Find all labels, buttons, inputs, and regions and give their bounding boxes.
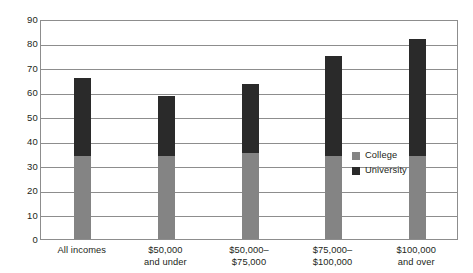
bar-segment-university[interactable] [74, 78, 91, 156]
bar-segment-university[interactable] [325, 56, 342, 156]
y-axis-tick-label: 80 [4, 39, 38, 49]
y-axis-tick-label: 70 [4, 64, 38, 74]
legend-swatch-icon [352, 152, 360, 160]
y-axis-tick-label: 10 [4, 211, 38, 221]
legend-item[interactable]: University [352, 163, 444, 178]
bar-segment-college[interactable] [74, 156, 91, 239]
legend-item[interactable]: College [352, 148, 444, 163]
legend-label: College [365, 151, 397, 160]
x-axis-tick-label-line: and over [364, 256, 468, 268]
bar-segment-university[interactable] [409, 39, 426, 156]
y-axis-tick-label: 50 [4, 113, 38, 123]
bar-segment-university[interactable] [158, 96, 175, 156]
bar-group[interactable] [158, 19, 175, 239]
bar-group[interactable] [409, 19, 426, 239]
y-axis-tick-label: 90 [4, 15, 38, 25]
y-axis: 0102030405060708090 [0, 0, 38, 273]
y-axis-tick-label: 20 [4, 186, 38, 196]
bar-segment-college[interactable] [242, 153, 259, 239]
bar-segment-university[interactable] [242, 84, 259, 154]
y-axis-tick-label: 40 [4, 137, 38, 147]
y-axis-tick-label: 30 [4, 162, 38, 172]
x-axis-tick-label: $100,000and over [364, 244, 468, 269]
bar-group[interactable] [325, 19, 342, 239]
legend-label: University [365, 166, 407, 175]
x-axis-tick-label-line: $100,000 [364, 244, 468, 256]
y-axis-tick-label: 60 [4, 88, 38, 98]
plot-area [40, 20, 458, 240]
bar-group[interactable] [74, 19, 91, 239]
chart-legend: CollegeUniversity [352, 148, 444, 178]
bar-group[interactable] [242, 19, 259, 239]
bar-segment-college[interactable] [158, 156, 175, 239]
stacked-bar-chart: 0102030405060708090 All incomes$50,000an… [0, 0, 473, 273]
bar-segment-college[interactable] [325, 156, 342, 239]
legend-swatch-icon [352, 167, 360, 175]
x-axis: All incomes$50,000and under$50,000–$75,0… [0, 244, 473, 273]
